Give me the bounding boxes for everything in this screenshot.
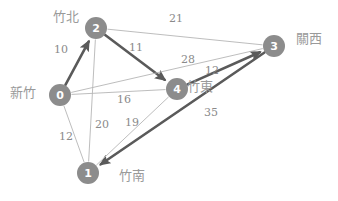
edge-weight-3-1: 35 [204,107,218,118]
graph-node-label-2: 2 [92,22,100,35]
graph-node-2[interactable]: 2 [85,17,107,39]
edge-weight-0-4: 16 [117,94,131,105]
edge-weight-1-2: 20 [95,119,109,130]
edge-weight-0-3: 28 [181,54,195,65]
graph-node-label-3: 3 [270,40,278,53]
graph-edge-1-2 [89,39,96,161]
node-layer: 01234 [49,17,285,184]
graph-edge-1-4 [96,97,168,165]
graph-edge-0-2 [65,42,88,85]
edge-weight-1-4: 19 [125,117,139,128]
edge-weight-2-3: 21 [169,13,183,24]
graph-node-label-0: 0 [56,89,64,102]
graph-diagram: 01234 10111235212816122019 新竹竹南竹北關西竹東 [0,0,338,201]
graph-node-3[interactable]: 3 [263,35,285,57]
place-label-0: 新竹 [10,86,36,99]
edge-weight-0-2: 10 [54,44,68,55]
edge-weight-0-1: 12 [59,131,73,142]
graph-edge-3-1 [101,52,265,164]
edge-layer [64,29,265,165]
graph-node-0[interactable]: 0 [49,84,71,106]
edge-weight-4-3: 12 [205,65,219,76]
graph-node-1[interactable]: 1 [77,162,99,184]
graph-node-label-1: 1 [84,167,92,180]
place-label-4: 竹東 [187,80,213,93]
place-label-1: 竹南 [119,169,145,182]
graph-svg: 01234 [0,0,338,201]
place-label-3: 關西 [296,32,322,45]
graph-node-label-4: 4 [173,83,181,96]
graph-node-4[interactable]: 4 [166,78,188,100]
edge-weight-2-4: 11 [129,42,143,53]
place-label-2: 竹北 [53,10,79,23]
